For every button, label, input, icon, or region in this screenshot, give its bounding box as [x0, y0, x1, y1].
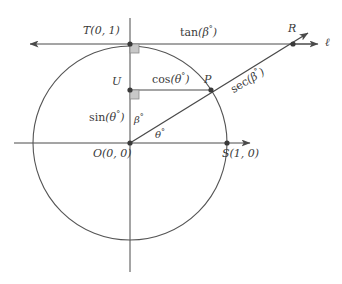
- label-point-t: T(0, 1): [83, 25, 120, 36]
- label-angle-theta: θ°: [155, 128, 165, 140]
- label-segment-sin: sin(θ°): [89, 110, 124, 123]
- label-point-p: P: [204, 74, 211, 85]
- label-point-u: U: [112, 76, 121, 87]
- point-marker-u: [127, 87, 132, 92]
- trig-unit-circle-figure: T(0, 1) tan(β°) R ℓ U cos(θ°) P sec(β°) …: [0, 0, 342, 284]
- point-marker-o: [127, 140, 132, 145]
- label-segment-cos: cos(θ°): [152, 72, 190, 85]
- label-point-r: R: [288, 23, 296, 34]
- point-marker-p: [208, 87, 213, 92]
- figure-canvas: [0, 0, 342, 284]
- point-marker-t: [127, 41, 132, 46]
- label-line-l: ℓ: [325, 37, 330, 48]
- label-point-s: S(1, 0): [222, 148, 259, 159]
- point-marker-r: [290, 41, 295, 46]
- label-angle-beta: β°: [134, 113, 144, 125]
- point-marker-s: [224, 140, 229, 145]
- label-segment-tan: tan(β°): [180, 25, 217, 38]
- label-point-o: O(0, 0): [93, 148, 132, 159]
